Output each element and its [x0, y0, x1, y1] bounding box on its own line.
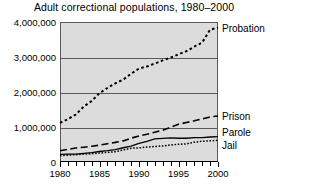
x-axis-tick-minor [147, 162, 148, 166]
y-axis-tick-label: 3,000,000 [14, 52, 56, 63]
x-axis-tick-minor [210, 162, 211, 166]
x-axis-tick-label: 1990 [128, 168, 149, 179]
x-axis-tick-minor [107, 162, 108, 166]
x-axis-tick-major [179, 162, 180, 167]
series-label-prison: Prison [222, 110, 250, 121]
x-axis-tick-major [218, 162, 219, 167]
x-axis-tick-minor [92, 162, 93, 166]
x-axis-tick-major [60, 162, 61, 167]
x-axis-tick-minor [163, 162, 164, 166]
chart-title: Adult correctional populations, 1980–200… [0, 1, 268, 13]
x-axis-tick-label: 1985 [89, 168, 110, 179]
series-line-parole [60, 137, 218, 155]
x-axis-tick-minor [76, 162, 77, 166]
series-label-jail: Jail [222, 139, 237, 150]
y-axis-tick-label: 0 [51, 157, 56, 168]
x-axis-tick-minor [202, 162, 203, 166]
x-axis-tick-minor [123, 162, 124, 166]
x-axis-tick-minor [115, 162, 116, 166]
series-line-prison [60, 116, 218, 151]
x-axis-tick-minor [68, 162, 69, 166]
y-axis-tick-label: 2,000,000 [14, 87, 56, 98]
x-axis-tick-label: 1980 [49, 168, 70, 179]
x-axis-tick-minor [194, 162, 195, 166]
series-lines [60, 22, 218, 162]
x-axis-tick-label: 2000 [207, 168, 228, 179]
x-axis-tick-label: 1995 [168, 168, 189, 179]
series-label-probation: Probation [222, 22, 265, 33]
y-axis-tick-label: 1,000,000 [14, 122, 56, 133]
y-axis-tick-label: 4,000,000 [14, 17, 56, 28]
x-axis-tick-minor [171, 162, 172, 166]
x-axis-tick-minor [186, 162, 187, 166]
x-axis-tick-major [100, 162, 101, 167]
x-axis-tick-minor [131, 162, 132, 166]
x-axis-tick-minor [84, 162, 85, 166]
x-axis-tick-minor [155, 162, 156, 166]
series-line-probation [60, 28, 218, 123]
chart-container: Adult correctional populations, 1980–200… [0, 0, 319, 193]
series-label-parole: Parole [222, 126, 251, 137]
x-axis-tick-major [139, 162, 140, 167]
